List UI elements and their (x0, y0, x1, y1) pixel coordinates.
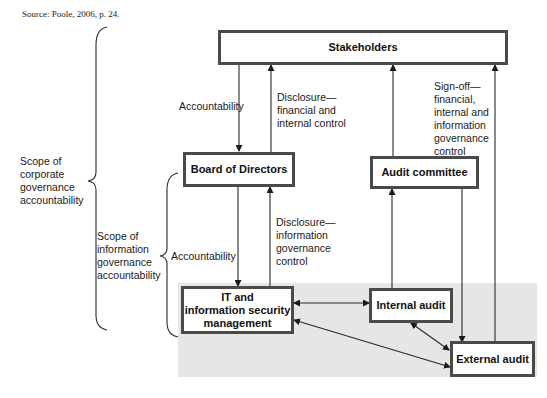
label-scope-corporate: Scope of corporate governance accountabi… (20, 155, 84, 207)
label-line: control (276, 255, 336, 268)
label-line: internal control (277, 117, 346, 130)
node-internal-audit: Internal audit (369, 288, 453, 323)
label-line: governance (20, 181, 84, 194)
label-line: Sign-off— (434, 80, 489, 93)
label-line: information (434, 119, 489, 132)
node-stakeholders: Stakeholders (218, 30, 508, 65)
label-accountability-bottom: Accountability (171, 250, 236, 263)
label-disclosure-financial: Disclosure— financial and internal contr… (277, 91, 346, 130)
label-line: financial and (277, 104, 346, 117)
label-line: information (97, 243, 161, 256)
label-scope-information: Scope of information governance accounta… (97, 230, 161, 282)
label-line: Disclosure— (276, 216, 336, 229)
node-audit-committee: Audit committee (370, 156, 479, 189)
arrow-it-external-audit (294, 320, 450, 367)
node-external-audit: External audit (450, 341, 535, 377)
brace-corporate-scope (88, 27, 107, 330)
label-line: governance (97, 256, 161, 269)
label-line: governance (434, 132, 489, 145)
node-it-security-management: IT and information security management (181, 286, 294, 334)
label-line: Scope of (20, 155, 84, 168)
node-board-label: Board of Directors (191, 163, 288, 176)
label-line: accountability (20, 194, 84, 207)
node-external-audit-label: External audit (456, 353, 529, 366)
node-it-line-2: information security (185, 304, 291, 317)
node-it-line-3: management (204, 317, 272, 330)
node-stakeholders-label: Stakeholders (328, 41, 397, 54)
label-accountability-top: Accountability (179, 100, 244, 113)
node-it-line-1: IT and (221, 291, 253, 304)
node-board-of-directors: Board of Directors (183, 152, 295, 187)
label-line: control (434, 145, 489, 158)
label-line: Scope of (97, 230, 161, 243)
label-line: accountability (97, 269, 161, 282)
label-line: corporate (20, 168, 84, 181)
arrow-internal-external-audit (411, 323, 449, 350)
label-disclosure-information: Disclosure— information governance contr… (276, 216, 336, 268)
label-line: information (276, 229, 336, 242)
label-line: internal and (434, 106, 489, 119)
node-internal-audit-label: Internal audit (376, 299, 445, 312)
node-audit-committee-label: Audit committee (381, 166, 467, 179)
label-signoff: Sign-off— financial, internal and inform… (434, 80, 489, 158)
label-line: governance (276, 242, 336, 255)
label-line: financial, (434, 93, 489, 106)
label-line: Disclosure— (277, 91, 346, 104)
